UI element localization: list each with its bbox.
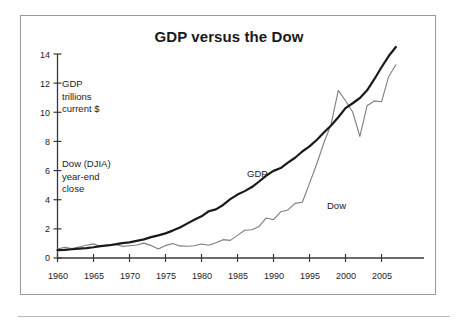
data-line-gdp [58, 47, 396, 250]
footer-divider [18, 316, 450, 317]
axes-group [54, 54, 425, 262]
data-line-dow [58, 65, 396, 249]
plot-area [0, 0, 458, 323]
figure-root: GDP versus the Dow 14 12 10 8 6 4 2 0 19… [0, 0, 458, 323]
